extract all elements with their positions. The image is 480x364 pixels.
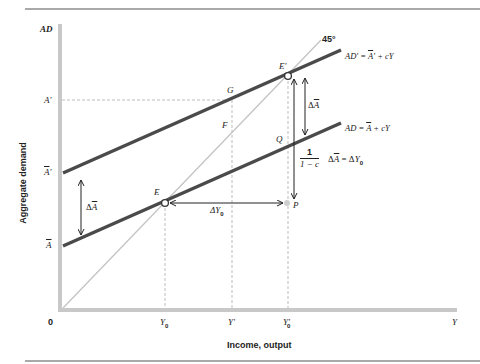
a-bar-symbol: A <box>46 240 52 250</box>
ad-prime-eq-left: AD' = <box>345 51 368 61</box>
fraction-numerator: 1 <box>300 148 319 159</box>
point-g-label: G <box>227 86 234 95</box>
delta-y-text: ΔY <box>210 205 220 215</box>
x-axis-title: Income, output <box>227 341 292 350</box>
y-axis-title: Aggregate demand <box>18 142 28 224</box>
point-e-marker <box>162 200 169 207</box>
ad-eq-left: AD = <box>345 123 366 133</box>
ad-prime-eq-right: ' + cY <box>373 51 393 61</box>
point-e-prime-marker <box>285 73 292 80</box>
delta-a-bar: A <box>92 202 98 212</box>
y-tick-a-prime: A' <box>44 96 51 105</box>
point-p-label: P <box>293 201 299 210</box>
y-axis-symbol: AD <box>40 25 53 34</box>
ad-prime-equation: AD' = A' + cY <box>345 52 394 61</box>
ad-line <box>63 123 341 246</box>
x-tick-y0-prime: Y'0 <box>283 318 290 329</box>
fraction-denominator: 1 − c <box>300 159 319 169</box>
y0-subscript: 0 <box>165 323 168 329</box>
equals-delta: = Δ <box>339 154 354 164</box>
x-tick-y-prime: Y' <box>228 318 235 327</box>
prime-mark: ' <box>50 167 52 177</box>
x-axis-symbol: Y <box>452 318 457 327</box>
y-tick-a-bar-prime: A' <box>44 168 51 177</box>
point-f-label: F <box>222 121 228 130</box>
x-tick-y0: Y0 <box>160 318 168 329</box>
delta-a-label-right: ΔA <box>308 101 319 110</box>
multiplier-equation-rhs: ΔA = ΔY0 <box>328 155 363 166</box>
chart-canvas <box>0 0 480 364</box>
delta-y0-label: ΔY0 <box>210 206 224 217</box>
point-e-prime-label: E' <box>279 62 286 71</box>
multiplier-fraction: 1 1 − c <box>300 148 319 169</box>
ad-eq-right: + cY <box>371 123 390 133</box>
point-q-label: Q <box>276 135 283 144</box>
point-p-marker <box>284 200 290 206</box>
ad-equation: AD = A + cY <box>345 124 390 133</box>
forty-five-line <box>63 40 321 308</box>
y-tick-a-bar: A <box>46 241 52 250</box>
delta-y0-subscript: 0 <box>220 211 223 217</box>
delta-a-bar: A <box>314 100 320 110</box>
forty-five-label: 45° <box>322 35 336 44</box>
delta-a-label-left: ΔA <box>86 203 97 212</box>
origin-label: 0 <box>48 318 53 327</box>
point-e-label: E <box>154 188 160 197</box>
y0-prime-subscript: 0 <box>287 323 290 329</box>
y0-subscript: 0 <box>360 160 363 166</box>
